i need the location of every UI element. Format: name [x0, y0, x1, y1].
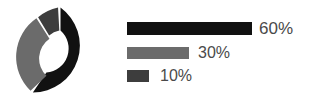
legend-label-30: 30% — [198, 45, 230, 61]
legend-swatch-10 — [127, 70, 149, 82]
legend-row-60[interactable]: 60% — [127, 18, 293, 38]
donut-infographic: 60% 30% 10% — [0, 0, 312, 106]
legend-swatch-60 — [127, 22, 252, 35]
legend-label-60: 60% — [259, 20, 293, 37]
legend-row-10[interactable]: 10% — [127, 66, 192, 86]
legend-row-30[interactable]: 30% — [127, 43, 230, 63]
legend-label-10: 10% — [160, 68, 192, 84]
legend: 60% 30% 10% — [127, 18, 307, 90]
legend-swatch-30 — [127, 47, 189, 59]
donut-chart — [11, 5, 110, 104]
donut-svg — [11, 5, 110, 104]
